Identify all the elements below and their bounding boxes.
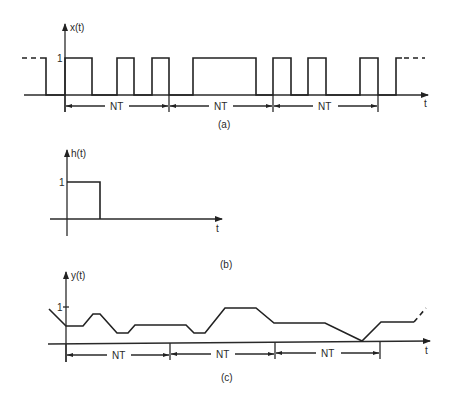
panel-a-ylabel: x(t): [70, 22, 84, 33]
panel-b-xlabel: t: [216, 223, 219, 234]
panel-c-output-waveform: [49, 308, 414, 341]
figure-canvas: x(t) t 1 NT NT NT (a) h(t) t: [0, 0, 450, 398]
panel-c-xlabel: t: [425, 345, 428, 356]
panel-b-rect-pulse: [67, 182, 100, 219]
panel-c-interval-label-1: NT: [112, 350, 125, 361]
panel-a-interval-label-3: NT: [318, 101, 331, 112]
panel-a-x-of-t: x(t) t 1 NT NT NT (a): [22, 22, 428, 130]
panel-a-xlabel: t: [424, 98, 427, 109]
panel-c-trailing-dashes: [414, 308, 426, 322]
panel-c-level-label: 1: [57, 302, 63, 313]
panel-c-time-axis: [48, 341, 430, 344]
panel-a-interval-label-2: NT: [214, 101, 227, 112]
panel-a-caption: (a): [218, 119, 230, 130]
panel-b-level-label: 1: [59, 177, 65, 188]
panel-a-pulse-train: [45, 58, 402, 95]
panel-c-interval-label-2: NT: [216, 349, 229, 360]
panel-b-h-of-t: h(t) t 1 (b): [50, 148, 232, 270]
panel-c-nt-brackets: NT NT NT: [66, 341, 380, 362]
panel-a-interval-label-1: NT: [110, 101, 123, 112]
panel-b-ylabel: h(t): [71, 148, 86, 159]
panel-a-nt-brackets: NT NT NT: [65, 95, 378, 112]
panel-a-level-label: 1: [57, 53, 63, 64]
panel-c-caption: (c): [221, 372, 233, 383]
panel-c-ylabel: y(t): [71, 270, 85, 281]
panel-b-caption: (b): [220, 259, 232, 270]
panel-c-y-of-t: y(t) t 1 NT NT NT (c): [48, 270, 430, 383]
panel-c-interval-label-3: NT: [321, 348, 334, 359]
